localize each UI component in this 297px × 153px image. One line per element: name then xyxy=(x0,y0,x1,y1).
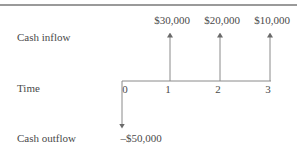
cash-flow-lines xyxy=(0,0,297,153)
